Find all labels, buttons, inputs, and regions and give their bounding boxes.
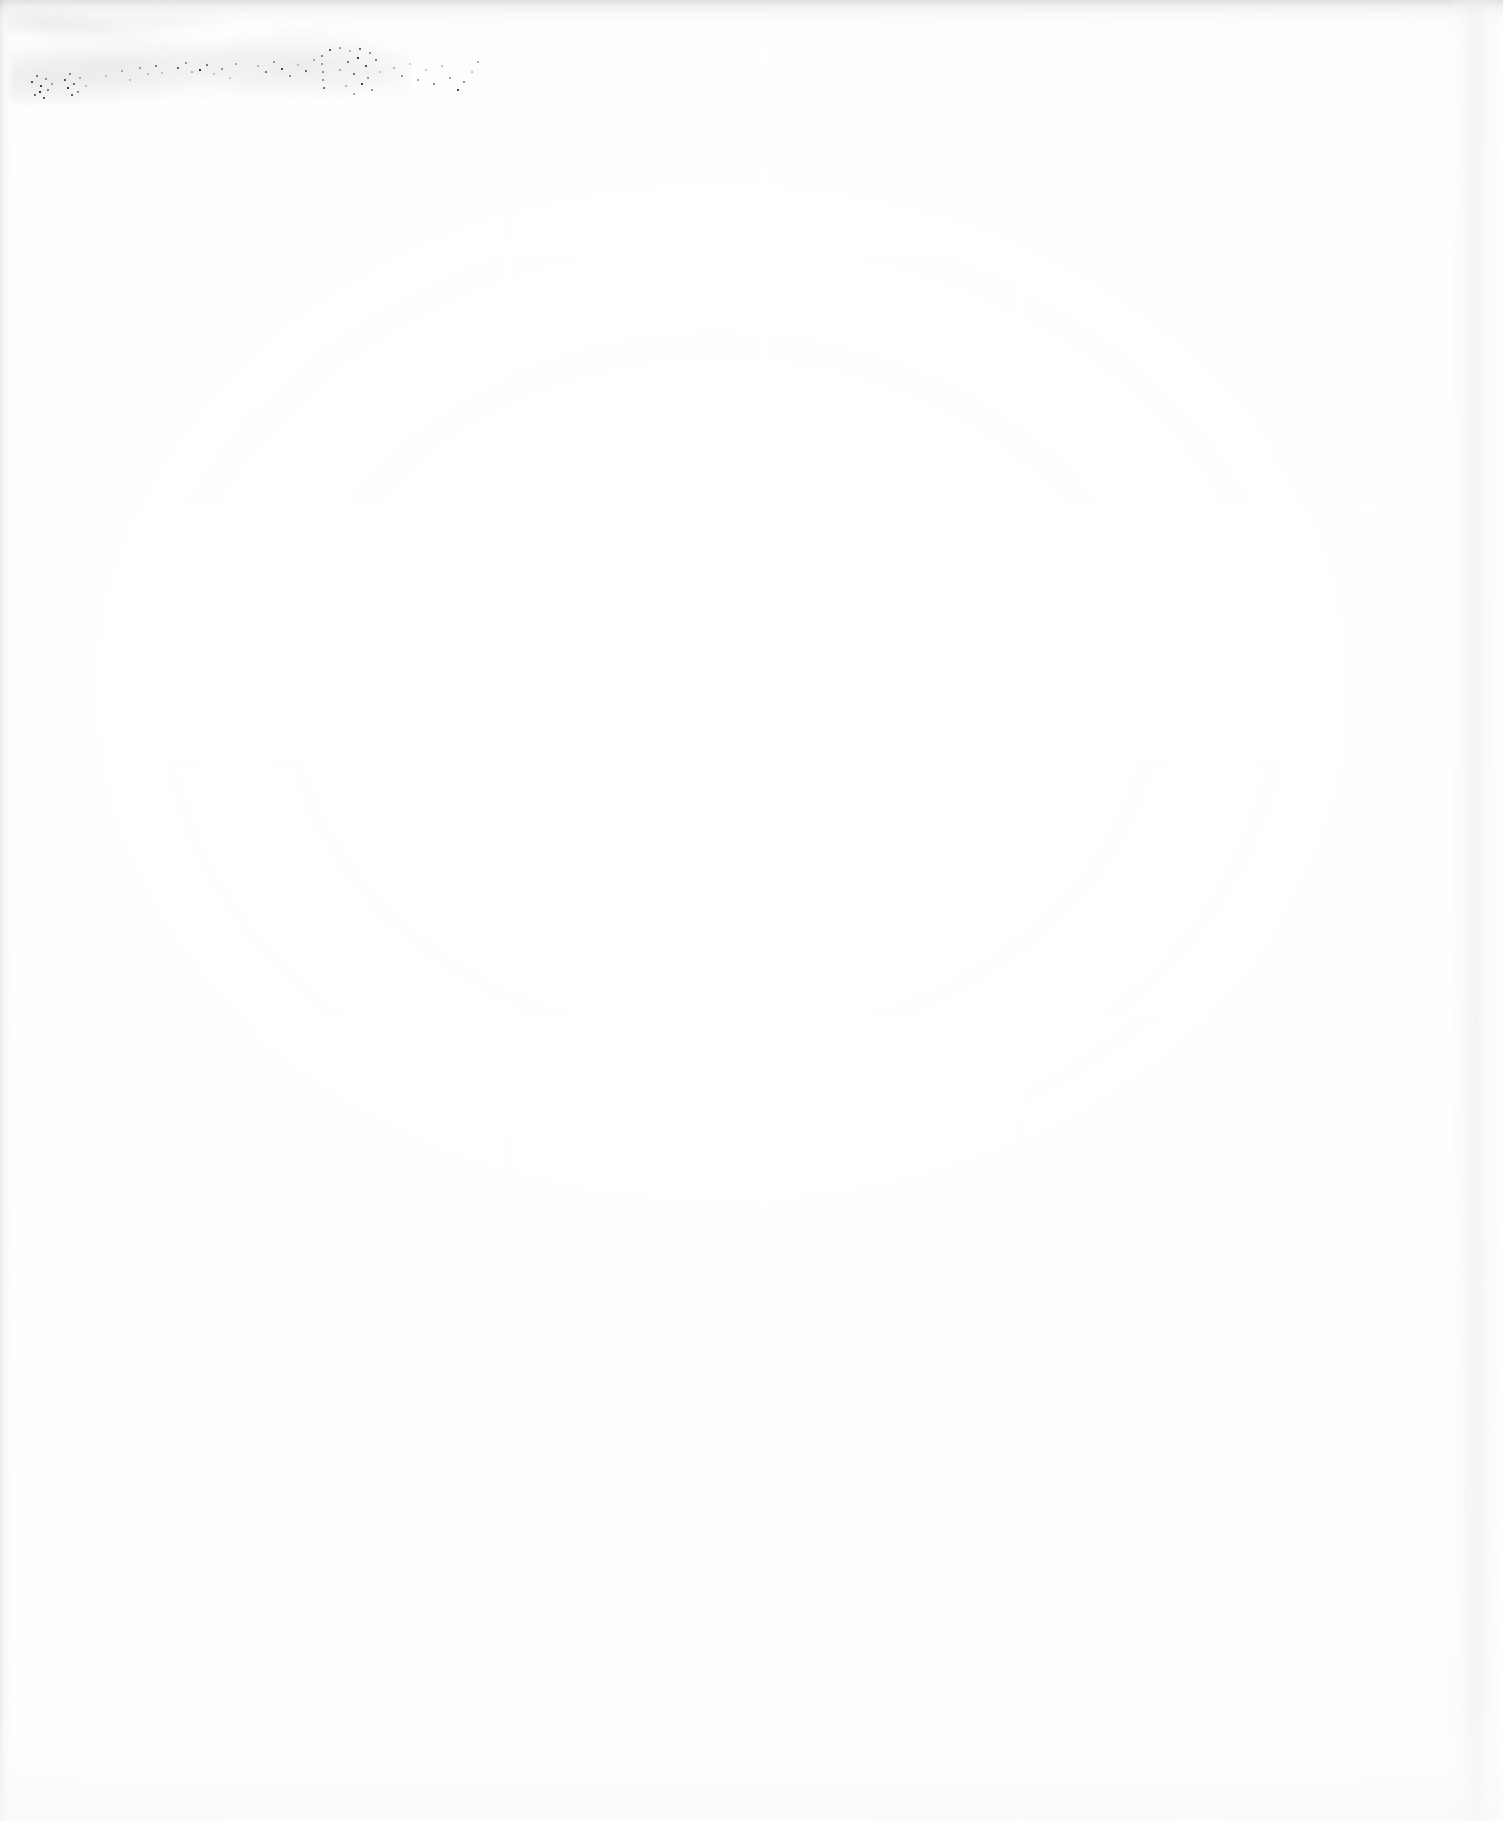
page-body bbox=[0, 120, 1503, 1680]
annotation-ink-specks bbox=[10, 38, 480, 100]
page-edge-shadow-bottom bbox=[0, 1691, 1503, 1821]
handwritten-annotation bbox=[10, 38, 480, 100]
scanned-page bbox=[0, 0, 1503, 1821]
